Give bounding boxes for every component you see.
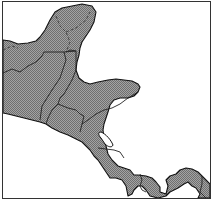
- central-america-map: [0, 0, 215, 205]
- landmass: [3, 4, 210, 198]
